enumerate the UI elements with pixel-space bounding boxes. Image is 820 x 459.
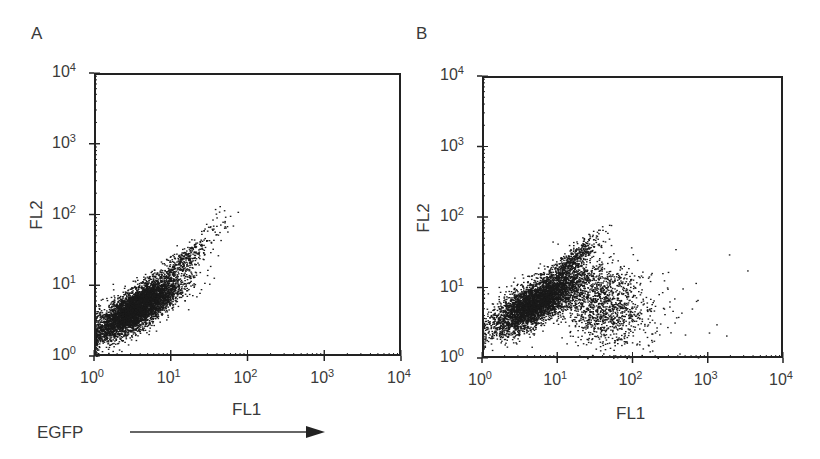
x-tick-label: 104 [387, 370, 411, 386]
scatter-plot-b [482, 76, 783, 358]
panel-b-label: B [416, 24, 427, 44]
x-tick-label: 101 [157, 370, 181, 386]
x-axis-title-a: FL1 [232, 400, 261, 420]
y-tick-label: 102 [440, 208, 464, 224]
x-tick-label: 102 [619, 372, 643, 388]
y-tick-label: 101 [440, 279, 464, 295]
y-tick-label: 103 [52, 135, 76, 151]
x-tick-label: 101 [543, 372, 567, 388]
plot-frame-b [482, 76, 783, 358]
x-tick-label: 102 [234, 370, 258, 386]
y-axis-title-a: FL2 [27, 200, 47, 229]
x-tick-label: 103 [694, 372, 718, 388]
egfp-label: EGFP [37, 423, 83, 443]
y-tick-label: 104 [440, 67, 464, 83]
arrow-right-icon [130, 424, 325, 440]
y-tick-label: 100 [440, 349, 464, 365]
x-tick-label: 100 [468, 372, 492, 388]
y-tick-label: 103 [440, 138, 464, 154]
plot-frame-a [94, 73, 401, 356]
x-tick-label: 103 [310, 370, 334, 386]
panel-a-label: A [31, 24, 42, 44]
x-axis-title-b: FL1 [616, 404, 645, 424]
y-tick-label: 104 [52, 64, 76, 80]
x-tick-label: 104 [769, 372, 793, 388]
x-tick-label: 100 [80, 370, 104, 386]
y-tick-label: 101 [52, 276, 76, 292]
y-axis-title-b: FL2 [414, 203, 434, 232]
scatter-plot-a [94, 73, 401, 356]
y-tick-label: 100 [52, 347, 76, 363]
y-tick-label: 102 [52, 206, 76, 222]
